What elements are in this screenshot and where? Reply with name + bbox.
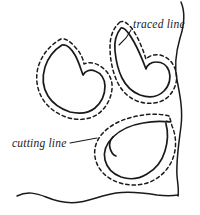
fabric-tracing-diagram: traced line cutting line: [0, 0, 200, 215]
traced-line-label: traced line: [133, 18, 185, 30]
diagram-canvas: traced line cutting line: [0, 0, 200, 215]
cutting-line-label: cutting line: [12, 137, 66, 150]
canvas-background: [0, 0, 200, 215]
